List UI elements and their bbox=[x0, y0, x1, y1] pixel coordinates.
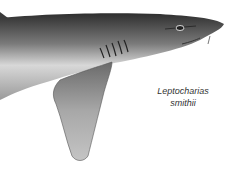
caption-species: smithii bbox=[148, 97, 218, 109]
eye-icon bbox=[176, 26, 184, 31]
illustration-frame: Leptocharias smithii bbox=[0, 0, 243, 173]
species-caption: Leptocharias smithii bbox=[148, 85, 218, 109]
caption-genus: Leptocharias bbox=[148, 85, 218, 97]
barbel bbox=[208, 36, 210, 44]
